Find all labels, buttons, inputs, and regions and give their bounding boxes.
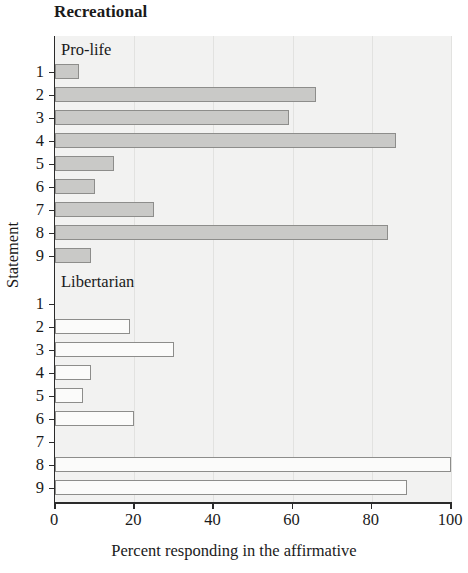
gridline bbox=[293, 36, 294, 502]
bar bbox=[55, 64, 79, 79]
y-axis-tick-label: 5 bbox=[22, 388, 44, 405]
y-axis-tick-label: 7 bbox=[22, 434, 44, 451]
gridline bbox=[372, 36, 373, 502]
x-axis-tick bbox=[133, 502, 135, 509]
y-axis-tick bbox=[49, 373, 55, 374]
group-label-prolife: Pro-life bbox=[61, 42, 111, 59]
y-axis-tick-label: 4 bbox=[22, 365, 44, 382]
gridline bbox=[451, 36, 452, 502]
x-axis-line bbox=[54, 502, 450, 504]
y-axis-tick bbox=[49, 118, 55, 119]
y-axis-tick-label: 3 bbox=[22, 110, 44, 127]
bar bbox=[55, 110, 289, 125]
plot-area: Pro-lifeLibertarian bbox=[54, 36, 451, 502]
x-axis-title: Percent responding in the affirmative bbox=[0, 541, 468, 561]
y-axis-tick-label: 8 bbox=[22, 225, 44, 242]
chart-title: Recreational bbox=[54, 2, 147, 22]
y-axis-tick-label: 1 bbox=[22, 64, 44, 81]
x-axis-tick bbox=[450, 502, 452, 509]
bar bbox=[55, 480, 407, 495]
bar bbox=[55, 342, 174, 357]
y-axis-tick bbox=[49, 396, 55, 397]
y-axis-tick bbox=[49, 442, 55, 443]
y-axis-tick-label: 7 bbox=[22, 202, 44, 219]
x-axis-tick bbox=[371, 502, 373, 509]
y-axis-tick-label: 6 bbox=[22, 179, 44, 196]
group-label-libertarian: Libertarian bbox=[61, 274, 134, 291]
x-axis-tick-label: 0 bbox=[50, 512, 58, 529]
bar bbox=[55, 179, 95, 194]
x-axis-tick bbox=[54, 502, 56, 509]
y-axis-tick bbox=[49, 233, 55, 234]
y-axis-tick-label: 9 bbox=[22, 480, 44, 497]
bar bbox=[55, 156, 114, 171]
y-axis-title: Statement bbox=[3, 160, 23, 350]
y-axis-tick bbox=[49, 304, 55, 305]
gridline bbox=[213, 36, 214, 502]
y-axis-tick bbox=[49, 350, 55, 351]
bar bbox=[55, 133, 396, 148]
y-axis-tick-label: 4 bbox=[22, 133, 44, 150]
bar bbox=[55, 319, 130, 334]
y-axis-tick bbox=[49, 210, 55, 211]
bar bbox=[55, 87, 316, 102]
bar bbox=[55, 457, 451, 472]
y-axis-tick bbox=[49, 488, 55, 489]
y-axis-tick bbox=[49, 187, 55, 188]
x-axis-tick bbox=[212, 502, 214, 509]
y-axis-tick-label: 2 bbox=[22, 87, 44, 104]
y-axis-tick-label: 9 bbox=[22, 248, 44, 265]
bar bbox=[55, 411, 134, 426]
y-axis-tick-label: 1 bbox=[22, 296, 44, 313]
y-axis-tick-label: 6 bbox=[22, 411, 44, 428]
y-axis-tick bbox=[49, 256, 55, 257]
x-axis-tick-label: 40 bbox=[204, 512, 221, 529]
chart-figure: Recreational Pro-lifeLibertarian 0204060… bbox=[0, 0, 468, 573]
y-axis-tick-label: 3 bbox=[22, 342, 44, 359]
bar bbox=[55, 248, 91, 263]
x-axis-tick-label: 100 bbox=[438, 512, 463, 529]
bar bbox=[55, 365, 91, 380]
bar bbox=[55, 388, 83, 403]
y-axis-tick bbox=[49, 95, 55, 96]
x-axis-tick bbox=[292, 502, 294, 509]
y-axis-tick-label: 8 bbox=[22, 457, 44, 474]
y-axis-tick bbox=[49, 327, 55, 328]
gridline bbox=[134, 36, 135, 502]
y-axis-tick-label: 5 bbox=[22, 156, 44, 173]
y-axis-tick bbox=[49, 465, 55, 466]
x-axis-tick-label: 20 bbox=[125, 512, 142, 529]
y-axis-tick bbox=[49, 419, 55, 420]
y-axis-tick-label: 2 bbox=[22, 319, 44, 336]
y-axis-tick bbox=[49, 164, 55, 165]
y-axis-tick bbox=[49, 72, 55, 73]
bar bbox=[55, 202, 154, 217]
x-axis-tick-label: 80 bbox=[363, 512, 380, 529]
x-axis-tick-label: 60 bbox=[283, 512, 300, 529]
bar bbox=[55, 225, 388, 240]
y-axis-tick bbox=[49, 141, 55, 142]
